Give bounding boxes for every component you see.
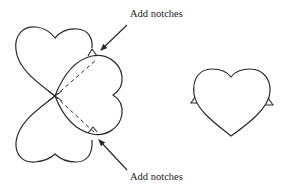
heart-middle xyxy=(55,55,122,134)
fold-line-lower xyxy=(55,96,94,132)
notch-upper xyxy=(88,49,97,56)
arrow-bottom xyxy=(99,140,127,170)
heart-notch-diagram xyxy=(0,0,287,193)
fold-line-upper xyxy=(55,60,96,96)
heart-right xyxy=(194,69,270,136)
heart-upper-left xyxy=(16,27,92,96)
arrow-top xyxy=(101,25,127,50)
label-add-notches-bottom: Add notches xyxy=(130,172,183,183)
label-add-notches-top: Add notches xyxy=(130,9,183,20)
